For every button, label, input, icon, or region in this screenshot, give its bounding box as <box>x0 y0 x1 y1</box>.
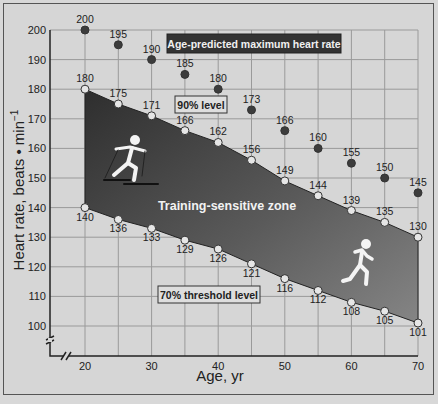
y-tick-label: 140 <box>28 202 46 214</box>
open-data-point <box>248 156 256 164</box>
x-tick-label: 50 <box>279 360 291 372</box>
point-value-label: 149 <box>276 164 294 176</box>
point-value-label: 171 <box>143 99 161 111</box>
point-value-label: 162 <box>209 125 227 137</box>
y-tick-label: 190 <box>28 54 46 66</box>
open-data-point <box>214 138 222 146</box>
x-axis-title: Age, yr <box>196 367 244 384</box>
max-data-point <box>414 189 422 197</box>
zone-label: Training-sensitive zone <box>158 199 296 213</box>
point-value-label: 144 <box>309 179 327 191</box>
heart-rate-chart: 1001101201301401501601701801902002030405… <box>0 0 438 404</box>
point-value-label: 155 <box>343 146 361 158</box>
ninety-level-box: 90% level <box>175 96 227 113</box>
point-value-label: 139 <box>343 194 361 206</box>
max-hr-label-box: Age-predicted maximum heart rate <box>167 34 341 53</box>
point-value-label: 173 <box>243 93 261 105</box>
open-data-point <box>381 218 389 226</box>
open-data-point <box>114 100 122 108</box>
point-value-label: 140 <box>76 211 94 223</box>
y-tick-label: 130 <box>28 231 46 243</box>
max-data-point <box>148 56 156 64</box>
point-value-label: 108 <box>343 305 361 317</box>
point-value-label: 166 <box>176 114 194 126</box>
x-tick-label: 60 <box>345 360 357 372</box>
point-value-label: 160 <box>309 131 327 143</box>
point-value-label: 166 <box>276 114 294 126</box>
open-data-point <box>148 112 156 120</box>
x-tick-label: 70 <box>412 360 424 372</box>
point-value-label: 190 <box>143 43 161 55</box>
y-tick-label: 120 <box>28 261 46 273</box>
max-data-point <box>347 159 355 167</box>
x-tick-label: 30 <box>145 360 157 372</box>
y-tick-label: 180 <box>28 83 46 95</box>
open-data-point <box>347 207 355 215</box>
y-tick-label: 150 <box>28 172 46 184</box>
point-value-label: 126 <box>209 252 227 264</box>
max-data-point <box>248 106 256 114</box>
y-tick-label: 100 <box>28 320 46 332</box>
point-value-label: 180 <box>209 72 227 84</box>
point-value-label: 185 <box>176 57 194 69</box>
max-data-point <box>381 174 389 182</box>
point-value-label: 200 <box>76 13 94 25</box>
point-value-label: 135 <box>376 205 394 217</box>
point-value-label: 129 <box>176 243 194 255</box>
point-value-label: 105 <box>376 314 394 326</box>
ninety-level-label: 90% level <box>177 99 224 111</box>
point-value-label: 116 <box>276 282 293 294</box>
open-data-point <box>314 192 322 200</box>
open-data-point <box>414 233 422 241</box>
max-data-point <box>214 85 222 93</box>
point-value-label: 101 <box>409 326 427 338</box>
open-data-point <box>181 127 189 135</box>
max-hr-label: Age-predicted maximum heart rate <box>167 38 340 50</box>
y-tick-label: 200 <box>28 24 46 36</box>
point-value-label: 175 <box>110 87 128 99</box>
max-data-point <box>81 26 89 34</box>
point-value-label: 121 <box>243 267 261 279</box>
point-value-label: 112 <box>310 293 327 305</box>
max-data-point <box>181 70 189 78</box>
seventy-level-box: 70% threshold level <box>158 286 260 303</box>
seventy-level-label: 70% threshold level <box>160 289 258 301</box>
max-data-point <box>314 144 322 152</box>
point-value-label: 145 <box>409 176 427 188</box>
open-data-point <box>81 85 89 93</box>
point-value-label: 130 <box>409 220 427 232</box>
point-value-label: 195 <box>110 28 128 40</box>
point-value-label: 133 <box>143 231 161 243</box>
max-data-point <box>114 41 122 49</box>
y-axis-title: Heart rate, beats • min−1 <box>9 109 27 270</box>
x-tick-label: 20 <box>79 360 91 372</box>
point-value-label: 136 <box>110 222 128 234</box>
y-tick-label: 160 <box>28 142 46 154</box>
point-value-label: 156 <box>243 143 261 155</box>
y-tick-label: 110 <box>28 290 46 302</box>
max-data-point <box>281 127 289 135</box>
point-value-label: 150 <box>376 161 394 173</box>
open-data-point <box>281 177 289 185</box>
y-tick-label: 170 <box>28 113 46 125</box>
point-value-label: 180 <box>76 72 94 84</box>
